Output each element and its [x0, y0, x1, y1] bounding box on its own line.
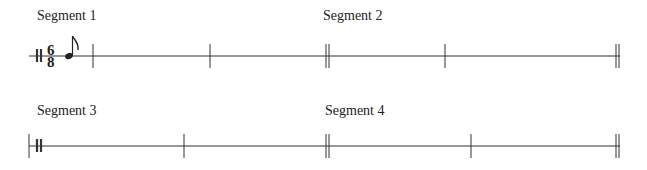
staff-row-1 [29, 44, 620, 68]
eighth-note-icon [64, 36, 78, 60]
time-signature-denominator: 8 [47, 54, 55, 70]
rhythm-staves: 6 8 [0, 0, 647, 170]
staff-row-2 [29, 134, 620, 158]
